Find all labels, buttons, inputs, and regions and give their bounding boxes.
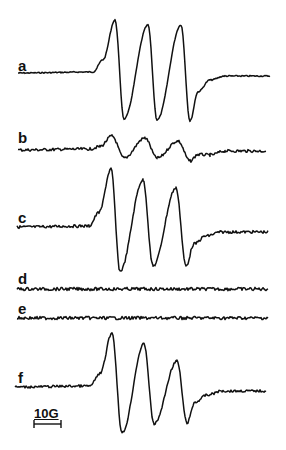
spectrum-trace-a	[18, 20, 270, 122]
trace-label-f: f	[18, 370, 23, 385]
scale-bar	[34, 420, 61, 428]
epr-spectra-figure	[0, 0, 286, 450]
spectrum-trace-b	[18, 135, 266, 162]
trace-label-b: b	[18, 130, 27, 145]
trace-label-e: e	[18, 301, 26, 316]
trace-label-a: a	[18, 58, 26, 73]
spectrum-trace-c	[17, 168, 268, 271]
spectrum-trace-e	[17, 316, 268, 319]
spectrum-trace-d	[17, 287, 268, 290]
scale-bar-label: 10G	[34, 407, 59, 420]
spectrum-traces	[15, 20, 270, 433]
trace-label-d: d	[18, 271, 27, 286]
trace-label-c: c	[18, 210, 26, 225]
